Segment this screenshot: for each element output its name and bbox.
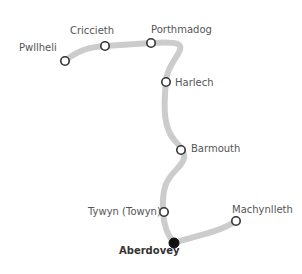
station-label-tywyn: Tywyn (Towyn) (88, 206, 161, 218)
railway-route-map: Pwllheli Criccieth Porthmadog Harlech Ba… (0, 0, 302, 274)
station-marker-tywyn[interactable] (160, 208, 168, 216)
station-label-barmouth: Barmouth (191, 143, 240, 155)
station-marker-machynlleth[interactable] (232, 217, 240, 225)
station-marker-pwllheli[interactable] (61, 57, 69, 65)
station-label-aberdovey: Aberdovey (119, 245, 179, 257)
station-marker-criccieth[interactable] (101, 42, 109, 50)
station-label-porthmadog: Porthmadog (151, 24, 212, 36)
station-marker-harlech[interactable] (162, 78, 170, 86)
station-label-pwllheli: Pwllheli (19, 42, 57, 54)
station-label-criccieth: Criccieth (70, 25, 114, 37)
station-label-harlech: Harlech (175, 77, 214, 89)
station-marker-barmouth[interactable] (177, 146, 185, 154)
station-label-machynlleth: Machynlleth (232, 204, 293, 216)
station-marker-porthmadog[interactable] (147, 39, 155, 47)
